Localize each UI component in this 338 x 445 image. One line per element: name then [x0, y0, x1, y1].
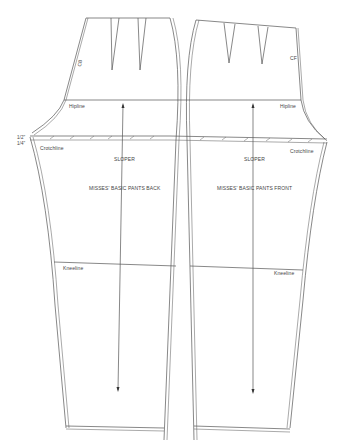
center-front-mark: CF — [290, 55, 297, 61]
back-piece-title: MISSES' BASIC PANTS BACK — [89, 185, 160, 191]
back-kneeline-label: Kneeline — [63, 265, 83, 271]
front-sloper-label: SLOPER — [244, 156, 265, 162]
back-crotchline-label: Crotchline — [40, 145, 64, 151]
pattern-drawing — [0, 0, 338, 445]
front-hipline-label: Hipline — [280, 103, 296, 109]
front-crotchline-label: Crotchline — [290, 148, 314, 154]
front-kneeline-label: Kneeline — [274, 270, 294, 276]
front-pattern-piece — [170, 20, 327, 440]
pattern-diagram: CB Hipline 1/2" 1/4" Crotchline SLOPER M… — [0, 0, 338, 445]
back-pattern-piece — [30, 18, 181, 440]
seam-allowance-quarter: 1/4" — [17, 141, 25, 146]
seam-allowance-half: 1/2" — [17, 135, 25, 140]
back-sloper-label: SLOPER — [114, 156, 135, 162]
front-piece-title: MISSES' BASIC PANTS FRONT — [217, 185, 292, 191]
back-hipline-label: Hipline — [69, 103, 85, 109]
center-back-mark: CB — [76, 59, 83, 67]
